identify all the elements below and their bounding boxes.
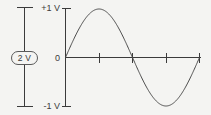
waveform-figure: 2 V +1 V 0 -1 V	[0, 0, 211, 115]
axis-label-positive-one: +1 V	[41, 3, 60, 13]
axis-label-zero: 0	[55, 53, 60, 63]
amplitude-label-capsule: 2 V	[12, 52, 38, 65]
waveform-svg: 2 V +1 V 0 -1 V	[0, 0, 211, 115]
axis-label-negative-one: -1 V	[43, 101, 60, 111]
amplitude-label-text: 2 V	[18, 53, 32, 63]
